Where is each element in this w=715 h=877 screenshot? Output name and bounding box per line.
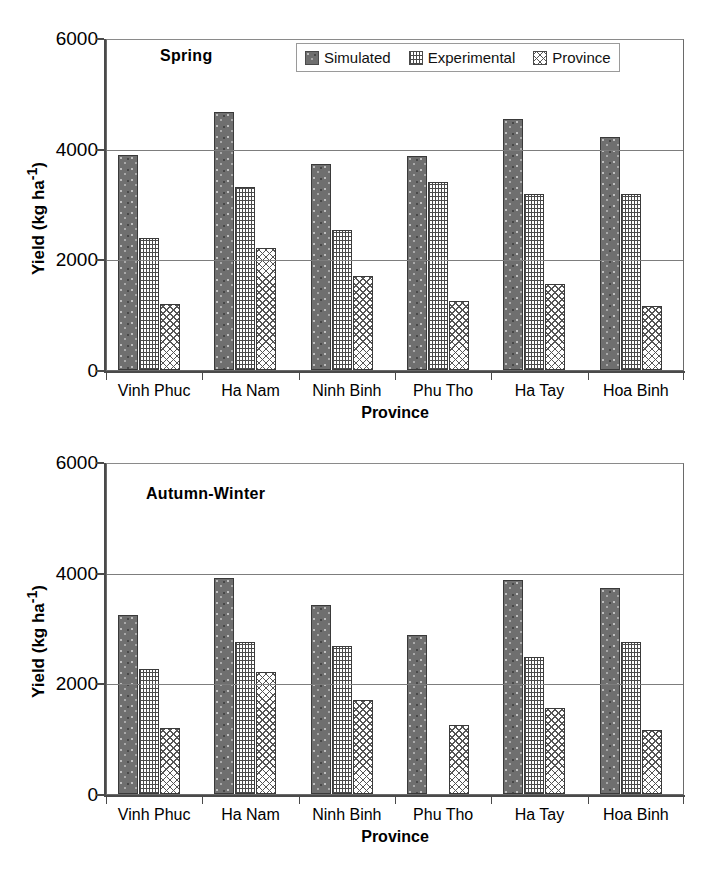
bar-province-vinh-phuc-spring xyxy=(160,304,180,370)
bar-province-ha-nam-spring xyxy=(256,248,276,370)
x-tick-mark-6-spring xyxy=(683,372,684,380)
bar-experimental-hoa-binh-spring xyxy=(621,194,641,370)
x-tick-label-vinh-phuc-spring: Vinh Phuc xyxy=(118,382,191,400)
bar-simulated-hoa-binh-spring xyxy=(600,137,620,371)
y-tick-mark-2000-autumn-winter xyxy=(96,683,104,685)
x-tick-mark-5-spring xyxy=(588,372,589,380)
bar-series-spring xyxy=(107,40,683,370)
chart-panel-spring: Yield (kg ha-1) 0200040006000 Vinh PhucH… xyxy=(0,0,715,440)
bar-province-phu-tho-autumn-winter xyxy=(449,725,469,794)
y-axis-labels-autumn-winter: 0200040006000 xyxy=(40,463,98,795)
y-tick-mark-0-spring xyxy=(96,370,104,372)
bar-simulated-ninh-binh-autumn-winter xyxy=(311,605,331,794)
x-tick-label-ha-tay-autumn-winter: Ha Tay xyxy=(515,806,565,824)
x-tick-mark-1-autumn-winter xyxy=(202,796,203,804)
bar-simulated-ha-tay-spring xyxy=(503,119,523,370)
x-tick-label-ha-nam-autumn-winter: Ha Nam xyxy=(221,806,280,824)
legend-label-simulated: Simulated xyxy=(324,49,391,66)
bar-province-ha-tay-autumn-winter xyxy=(545,708,565,794)
bar-group-ninh-binh-spring xyxy=(300,40,396,370)
legend-label-experimental: Experimental xyxy=(428,49,516,66)
bar-simulated-phu-tho-autumn-winter xyxy=(407,635,427,794)
x-tick-mark-4-spring xyxy=(491,372,492,380)
x-tick-mark-4-autumn-winter xyxy=(491,796,492,804)
panel-title-spring: Spring xyxy=(160,47,212,65)
bar-experimental-ha-tay-spring xyxy=(524,194,544,370)
x-tick-mark-0-autumn-winter xyxy=(106,796,107,804)
y-axis-ticks-autumn-winter xyxy=(96,463,104,795)
bar-province-phu-tho-spring xyxy=(449,301,469,370)
bar-experimental-ha-nam-autumn-winter xyxy=(235,642,255,794)
y-tick-mark-0-autumn-winter xyxy=(96,794,104,796)
x-tick-mark-1-spring xyxy=(202,372,203,380)
panel-title-autumn-winter: Autumn-Winter xyxy=(146,485,265,503)
x-axis-title-spring: Province xyxy=(106,404,684,422)
plot-area-autumn-winter xyxy=(106,463,684,795)
plot-area-spring xyxy=(106,39,684,371)
y-tick-mark-4000-spring xyxy=(96,149,104,151)
bar-simulated-ha-nam-autumn-winter xyxy=(214,578,234,794)
bar-group-hoa-binh-autumn-winter xyxy=(589,464,685,794)
x-axis-ticks-autumn-winter xyxy=(106,796,684,804)
bar-group-ha-nam-autumn-winter xyxy=(203,464,299,794)
bar-simulated-ninh-binh-spring xyxy=(311,164,331,370)
x-tick-label-ninh-binh-autumn-winter: Ninh Binh xyxy=(312,806,381,824)
y-tick-label-6000-spring: 6000 xyxy=(56,28,98,50)
legend-label-province: Province xyxy=(552,49,610,66)
y-axis-ticks-spring xyxy=(96,39,104,371)
bar-experimental-ninh-binh-autumn-winter xyxy=(332,646,352,794)
y-tick-label-4000-spring: 4000 xyxy=(56,139,98,161)
bar-group-ha-tay-spring xyxy=(492,40,588,370)
chart-panel-autumn-winter: Yield (kg ha-1) 0200040006000 Vinh PhucH… xyxy=(0,440,715,877)
y-tick-mark-6000-autumn-winter xyxy=(96,462,104,464)
bar-group-phu-tho-autumn-winter xyxy=(396,464,492,794)
x-tick-label-ha-tay-spring: Ha Tay xyxy=(515,382,565,400)
x-tick-label-ha-nam-spring: Ha Nam xyxy=(221,382,280,400)
x-tick-mark-6-autumn-winter xyxy=(683,796,684,804)
bar-group-vinh-phuc-spring xyxy=(107,40,203,370)
legend-swatch-simulated-icon xyxy=(305,51,319,65)
legend-item-experimental: Experimental xyxy=(409,49,516,66)
x-tick-mark-5-autumn-winter xyxy=(588,796,589,804)
x-tick-label-hoa-binh-autumn-winter: Hoa Binh xyxy=(603,806,669,824)
legend-swatch-experimental-icon xyxy=(409,51,423,65)
y-tick-label-2000-autumn-winter: 2000 xyxy=(56,673,98,695)
x-tick-label-phu-tho-spring: Phu Tho xyxy=(413,382,473,400)
bar-group-ha-nam-spring xyxy=(203,40,299,370)
x-tick-label-phu-tho-autumn-winter: Phu Tho xyxy=(413,806,473,824)
bar-experimental-vinh-phuc-autumn-winter xyxy=(139,669,159,794)
y-tick-mark-2000-spring xyxy=(96,259,104,261)
x-tick-mark-3-spring xyxy=(395,372,396,380)
bar-group-phu-tho-spring xyxy=(396,40,492,370)
bar-simulated-vinh-phuc-spring xyxy=(118,155,138,370)
bar-series-autumn-winter xyxy=(107,464,683,794)
x-axis-ticks-spring xyxy=(106,372,684,380)
x-tick-mark-0-spring xyxy=(106,372,107,380)
x-axis-labels-spring: Vinh PhucHa NamNinh BinhPhu ThoHa TayHoa… xyxy=(106,382,684,406)
x-tick-label-ninh-binh-spring: Ninh Binh xyxy=(312,382,381,400)
bar-experimental-ha-tay-autumn-winter xyxy=(524,657,544,794)
x-tick-label-vinh-phuc-autumn-winter: Vinh Phuc xyxy=(118,806,191,824)
bar-province-hoa-binh-spring xyxy=(642,306,662,370)
gridline-4000-autumn-winter xyxy=(107,574,683,575)
chart-legend: Simulated Experimental Province xyxy=(296,43,620,72)
bar-group-ha-tay-autumn-winter xyxy=(492,464,588,794)
bar-province-ha-tay-spring xyxy=(545,284,565,370)
y-tick-mark-4000-autumn-winter xyxy=(96,573,104,575)
bar-simulated-vinh-phuc-autumn-winter xyxy=(118,615,138,794)
bar-province-ha-nam-autumn-winter xyxy=(256,672,276,794)
x-tick-mark-2-autumn-winter xyxy=(299,796,300,804)
bar-province-ninh-binh-autumn-winter xyxy=(353,700,373,794)
x-tick-mark-2-spring xyxy=(299,372,300,380)
legend-item-simulated: Simulated xyxy=(305,49,391,66)
bar-experimental-ninh-binh-spring xyxy=(332,230,352,370)
y-tick-label-2000-spring: 2000 xyxy=(56,249,98,271)
x-tick-mark-3-autumn-winter xyxy=(395,796,396,804)
bar-province-vinh-phuc-autumn-winter xyxy=(160,728,180,794)
bar-experimental-phu-tho-spring xyxy=(428,182,448,370)
y-tick-label-4000-autumn-winter: 4000 xyxy=(56,563,98,585)
bar-simulated-hoa-binh-autumn-winter xyxy=(600,588,620,794)
legend-swatch-province-icon xyxy=(533,51,547,65)
y-tick-label-6000-autumn-winter: 6000 xyxy=(56,452,98,474)
bar-experimental-hoa-binh-autumn-winter xyxy=(621,642,641,794)
